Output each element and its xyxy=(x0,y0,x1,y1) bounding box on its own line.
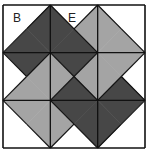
label-e: E xyxy=(68,11,76,25)
quilt-diagram: B E xyxy=(0,0,146,160)
label-b: B xyxy=(13,11,21,25)
